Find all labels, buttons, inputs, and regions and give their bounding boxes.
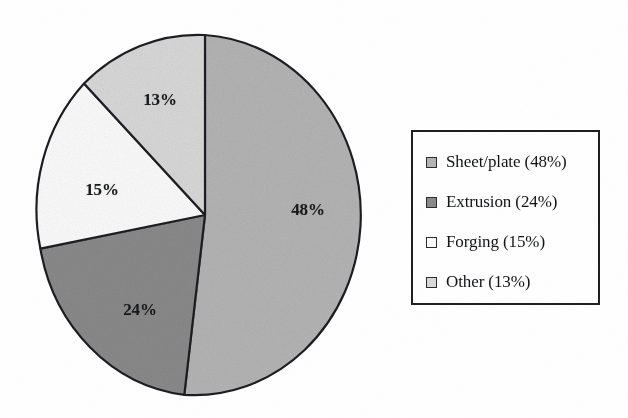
slice-label-sheet-plate: 48% xyxy=(291,200,324,220)
pie-chart-figure: 48% 24% 15% 13% Sheet/plate (48%) Extrus… xyxy=(0,0,628,418)
legend-item-extrusion[interactable]: Extrusion (24%) xyxy=(426,182,598,222)
pie-svg xyxy=(0,0,400,418)
pie-slice-sheet-plate[interactable] xyxy=(184,35,361,395)
legend-label: Forging (15%) xyxy=(446,232,545,252)
slice-label-other: 13% xyxy=(143,90,176,110)
legend-label: Other (13%) xyxy=(446,272,530,292)
pie-area: 48% 24% 15% 13% xyxy=(0,0,400,418)
legend-swatch-icon xyxy=(426,157,437,168)
legend-swatch-icon xyxy=(426,237,437,248)
slice-label-forging: 15% xyxy=(85,180,118,200)
legend-item-other[interactable]: Other (13%) xyxy=(426,262,598,302)
chart-legend: Sheet/plate (48%) Extrusion (24%) Forgin… xyxy=(411,130,600,305)
slice-label-extrusion: 24% xyxy=(123,300,156,320)
legend-label: Sheet/plate (48%) xyxy=(446,152,567,172)
legend-item-forging[interactable]: Forging (15%) xyxy=(426,222,598,262)
legend-swatch-icon xyxy=(426,277,437,288)
legend-item-sheet-plate[interactable]: Sheet/plate (48%) xyxy=(426,142,598,182)
legend-swatch-icon xyxy=(426,197,437,208)
legend-label: Extrusion (24%) xyxy=(446,192,557,212)
